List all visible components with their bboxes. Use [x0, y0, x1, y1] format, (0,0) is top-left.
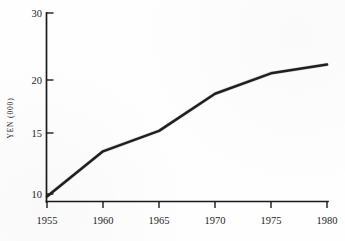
x-tick-label-1955: 1955 [37, 215, 58, 226]
y-tick-label-20: 20 [32, 75, 43, 86]
y-axis-title: YEN (000) [6, 97, 15, 138]
y-tick-label-15: 15 [32, 128, 43, 139]
x-tick-label-1975: 1975 [261, 215, 282, 226]
y-tick-label-30: 30 [32, 8, 43, 19]
y-tick-label-10: 10 [32, 189, 43, 200]
chart-figure: 30 20 15 10 YEN (000) 1955 1960 1965 197… [0, 0, 345, 241]
x-tick-label-1980: 1980 [317, 215, 338, 226]
x-tick-label-1970: 1970 [205, 215, 226, 226]
line-chart-canvas: 30 20 15 10 YEN (000) 1955 1960 1965 197… [0, 0, 345, 241]
x-tick-label-1965: 1965 [149, 215, 170, 226]
x-tick-label-1960: 1960 [93, 215, 114, 226]
